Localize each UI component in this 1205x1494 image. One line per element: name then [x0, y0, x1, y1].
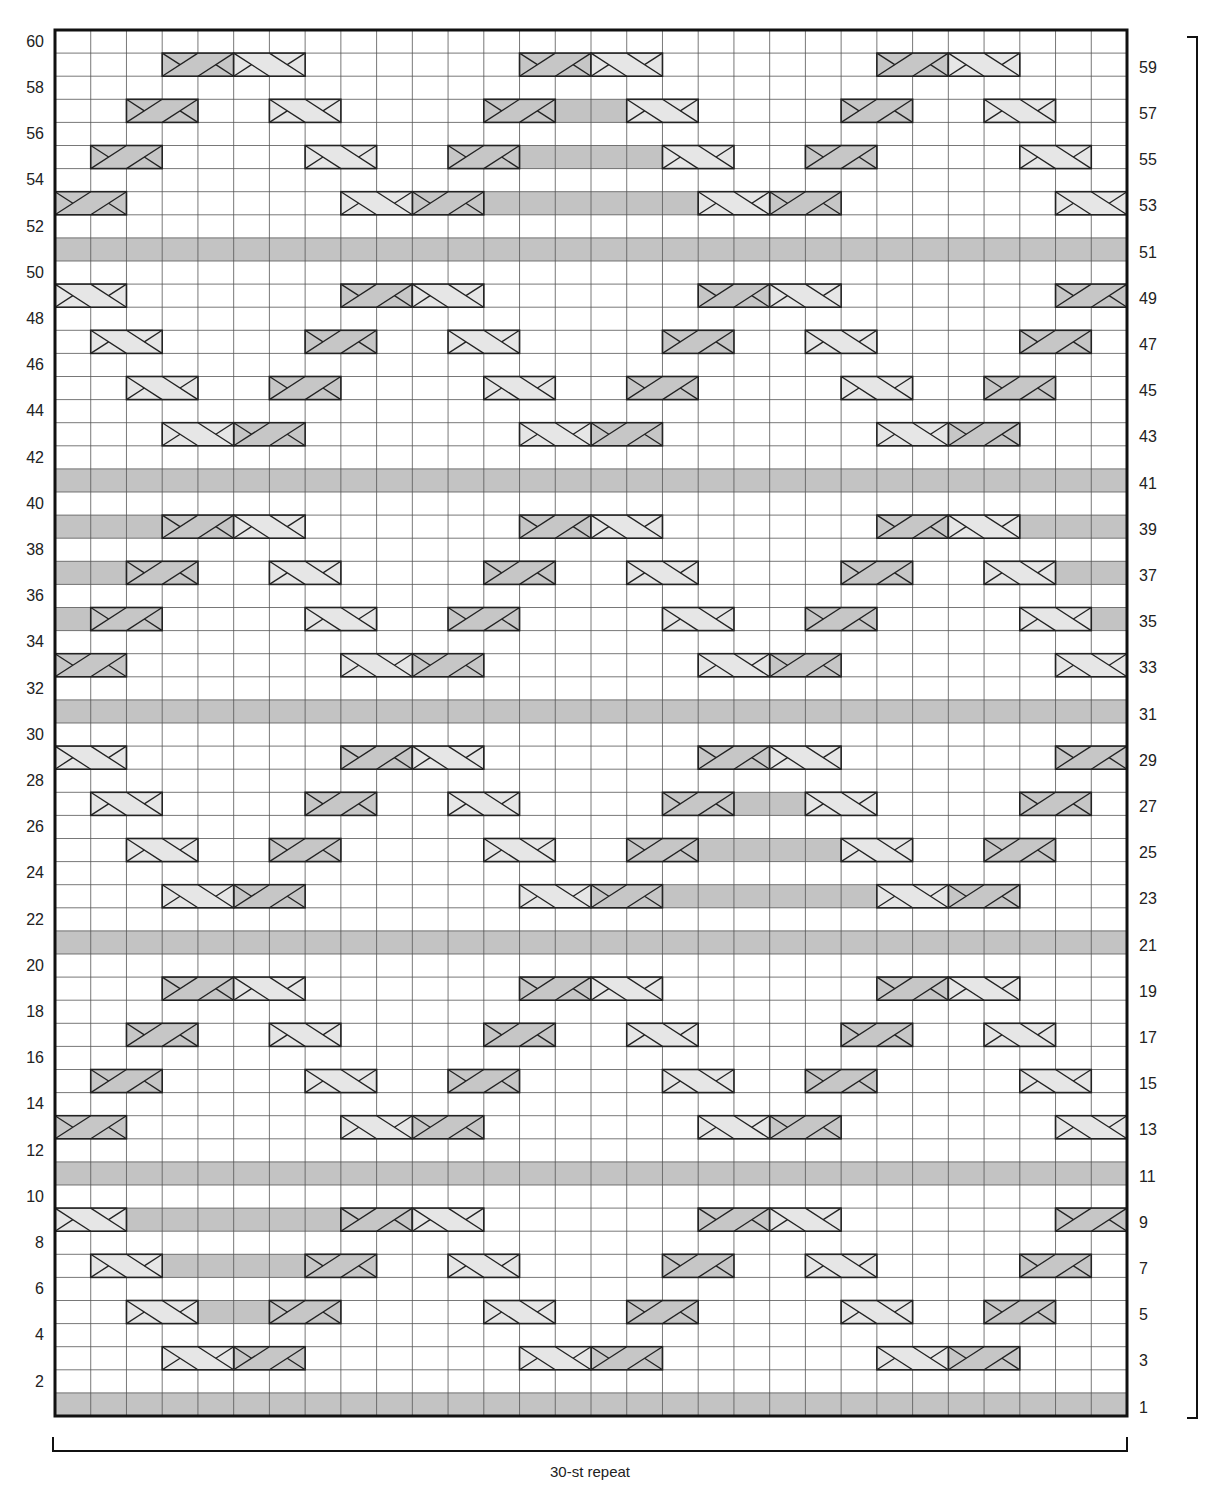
right-cross-cable-icon [305, 1070, 376, 1093]
left-cross-cable-icon [662, 330, 733, 353]
right-cross-cable-icon [269, 99, 340, 122]
row-number-label: 50 [26, 264, 44, 281]
left-cross-cable-icon [234, 1347, 305, 1370]
row-number-label: 18 [26, 1003, 44, 1020]
right-cross-cable-icon [305, 608, 376, 631]
right-cross-cable-icon [341, 1116, 412, 1139]
row-number-label: 38 [26, 541, 44, 558]
right-cross-cable-icon [1056, 192, 1127, 215]
row-number-label: 49 [1139, 290, 1157, 307]
right-cross-cable-icon [984, 561, 1055, 584]
right-cross-cable-icon [770, 746, 841, 769]
left-cross-cable-icon [1056, 284, 1127, 307]
right-cross-cable-icon [448, 792, 519, 815]
right-cross-cable-icon [627, 1023, 698, 1046]
row-number-label: 36 [26, 587, 44, 604]
row-number-label: 8 [35, 1234, 44, 1251]
left-cross-cable-icon [627, 839, 698, 862]
right-cross-cable-icon [770, 284, 841, 307]
left-cross-cable-icon [234, 885, 305, 908]
left-cross-cable-icon [770, 1116, 841, 1139]
left-cross-cable-icon [698, 1208, 769, 1231]
left-cross-cable-icon [412, 192, 483, 215]
left-cross-cable-icon [55, 192, 126, 215]
right-cross-cable-icon [484, 1301, 555, 1324]
row-number-label: 3 [1139, 1352, 1148, 1369]
left-cross-cable-icon [841, 1023, 912, 1046]
left-cross-cable-icon [269, 839, 340, 862]
left-cross-cable-icon [948, 423, 1019, 446]
row-number-label: 48 [26, 310, 44, 327]
right-cross-cable-icon [948, 977, 1019, 1000]
right-cross-cable-icon [1020, 1070, 1091, 1093]
row-number-label: 20 [26, 957, 44, 974]
left-cross-cable-icon [305, 330, 376, 353]
row-number-label: 51 [1139, 244, 1157, 261]
right-cross-cable-icon [55, 746, 126, 769]
left-cross-cable-icon [984, 1301, 1055, 1324]
left-cross-cable-icon [770, 192, 841, 215]
purl-cells [1091, 608, 1127, 631]
left-cross-cable-icon [984, 377, 1055, 400]
row-number-label: 23 [1139, 890, 1157, 907]
left-cross-cable-icon [877, 515, 948, 538]
row-number-label: 7 [1139, 1260, 1148, 1277]
right-cross-cable-icon [984, 99, 1055, 122]
left-cross-cable-icon [55, 1116, 126, 1139]
left-cross-cable-icon [805, 608, 876, 631]
left-cross-cable-icon [269, 1301, 340, 1324]
left-cross-cable-icon [484, 99, 555, 122]
stitch-repeat-label: 30-st repeat [550, 1463, 631, 1480]
right-cross-cable-icon [234, 515, 305, 538]
row-number-label: 21 [1139, 937, 1157, 954]
left-cross-cable-icon [1056, 746, 1127, 769]
left-cross-cable-icon [126, 1023, 197, 1046]
row-number-label: 19 [1139, 983, 1157, 1000]
row-number-label: 43 [1139, 428, 1157, 445]
row-number-label: 32 [26, 680, 44, 697]
left-cross-cable-icon [126, 561, 197, 584]
row-number-label: 30 [26, 726, 44, 743]
left-cross-cable-icon [484, 1023, 555, 1046]
right-cross-cable-icon [662, 146, 733, 169]
row-number-label: 15 [1139, 1075, 1157, 1092]
right-cross-cable-icon [341, 654, 412, 677]
left-cross-cable-icon [162, 977, 233, 1000]
left-cross-cable-icon [841, 561, 912, 584]
row-number-label: 55 [1139, 151, 1157, 168]
left-cross-cable-icon [91, 146, 162, 169]
right-cross-cable-icon [162, 1347, 233, 1370]
row-number-label: 59 [1139, 59, 1157, 76]
left-cross-cable-icon [662, 792, 733, 815]
left-cross-cable-icon [1020, 330, 1091, 353]
left-cross-cable-icon [1020, 792, 1091, 815]
left-cross-cable-icon [948, 1347, 1019, 1370]
left-cross-cable-icon [412, 1116, 483, 1139]
left-row-numbers: 6058565452504846444240383634323028262422… [26, 33, 44, 1390]
row-number-label: 57 [1139, 105, 1157, 122]
row-number-label: 40 [26, 495, 44, 512]
row-number-label: 39 [1139, 521, 1157, 538]
right-cross-cable-icon [948, 53, 1019, 76]
left-cross-cable-icon [698, 746, 769, 769]
right-cross-cable-icon [1056, 654, 1127, 677]
row-number-label: 26 [26, 818, 44, 835]
right-cross-cable-icon [91, 330, 162, 353]
left-cross-cable-icon [698, 284, 769, 307]
row-number-label: 45 [1139, 382, 1157, 399]
row-number-label: 35 [1139, 613, 1157, 630]
left-cross-cable-icon [520, 977, 591, 1000]
right-cross-cable-icon [591, 515, 662, 538]
row-number-label: 24 [26, 864, 44, 881]
right-cross-cable-icon [484, 377, 555, 400]
right-cross-cable-icon [484, 839, 555, 862]
row-number-label: 10 [26, 1188, 44, 1205]
row-number-label: 1 [1139, 1399, 1148, 1416]
right-cross-cable-icon [269, 1023, 340, 1046]
left-cross-cable-icon [55, 654, 126, 677]
row-number-label: 11 [1139, 1168, 1156, 1185]
right-cross-cable-icon [412, 284, 483, 307]
left-cross-cable-icon [341, 746, 412, 769]
right-cross-cable-icon [877, 423, 948, 446]
right-cross-cable-icon [805, 330, 876, 353]
